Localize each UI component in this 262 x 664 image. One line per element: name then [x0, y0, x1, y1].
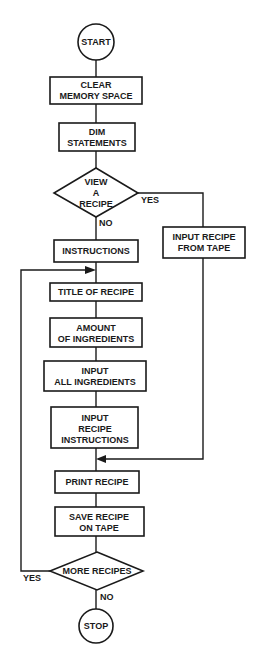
tape-label-2: FROM TAPE: [178, 243, 230, 253]
view-label-2: A: [93, 188, 100, 198]
view-no-label: NO: [99, 218, 113, 228]
view-label-3: RECIPE: [79, 199, 113, 209]
node-instructions: INSTRUCTIONS: [54, 240, 138, 262]
node-more-recipes: MORE RECIPES: [50, 552, 143, 590]
clear-memory-label-2: MEMORY SPACE: [60, 91, 133, 101]
stop-label: STOP: [84, 621, 108, 631]
clear-memory-label-1: CLEAR: [81, 80, 112, 90]
more-yes-label: YES: [23, 573, 41, 583]
iri-label-2: RECIPE: [78, 424, 112, 434]
node-print-recipe: PRINT RECIPE: [55, 471, 139, 493]
iri-label-1: INPUT: [82, 413, 110, 423]
merge-arrow-icon: [96, 455, 106, 463]
input-all-label-2: ALL INGREDIENTS: [54, 377, 135, 387]
loop-arrow-icon: [85, 266, 96, 274]
dim-label-1: DIM: [89, 127, 106, 137]
node-input-all-ingredients: INPUT ALL INGREDIENTS: [44, 361, 146, 391]
save-label-1: SAVE RECIPE: [69, 512, 129, 522]
view-yes-label: YES: [141, 195, 159, 205]
node-clear-memory: CLEAR MEMORY SPACE: [50, 77, 142, 104]
node-save-recipe: SAVE RECIPE ON TAPE: [55, 507, 144, 536]
node-input-recipe-instructions: INPUT RECIPE INSTRUCTIONS: [51, 407, 138, 448]
input-all-label-1: INPUT: [82, 366, 110, 376]
more-no-label: NO: [100, 592, 114, 602]
node-start: START: [78, 24, 114, 60]
more-recipes-label: MORE RECIPES: [62, 566, 131, 576]
instructions-label: INSTRUCTIONS: [62, 246, 130, 256]
title-label: TITLE OF RECIPE: [58, 287, 134, 297]
recipe-flowchart: START CLEAR MEMORY SPACE DIM STATEMENTS …: [0, 0, 262, 664]
node-input-from-tape: INPUT RECIPE FROM TAPE: [163, 227, 245, 258]
node-view-recipe: VIEW A RECIPE: [54, 168, 138, 217]
iri-label-3: INSTRUCTIONS: [61, 435, 129, 445]
node-title-of-recipe: TITLE OF RECIPE: [50, 283, 142, 301]
view-label-1: VIEW: [84, 177, 108, 187]
tape-label-1: INPUT RECIPE: [172, 232, 235, 242]
node-dim-statements: DIM STATEMENTS: [59, 123, 135, 151]
amount-label-2: OF INGREDIENTS: [58, 334, 135, 344]
start-label: START: [81, 37, 111, 47]
node-stop: STOP: [79, 609, 113, 643]
amount-label-1: AMOUNT: [76, 323, 116, 333]
dim-label-2: STATEMENTS: [67, 138, 127, 148]
print-label: PRINT RECIPE: [65, 477, 128, 487]
save-label-2: ON TAPE: [79, 523, 118, 533]
node-amount-of-ingredients: AMOUNT OF INGREDIENTS: [50, 318, 142, 347]
